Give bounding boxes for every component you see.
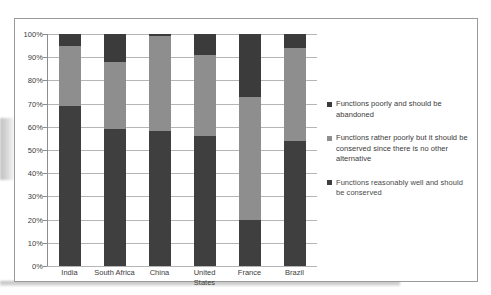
x-axis-tick-label: Brazil — [285, 268, 304, 278]
bar-segment[interactable] — [194, 136, 216, 266]
legend-square-marker-icon — [327, 180, 332, 185]
x-axis-label-line: France — [238, 268, 261, 278]
x-axis-tick-label: UnitedStates — [194, 268, 216, 287]
bar-segment[interactable] — [284, 141, 306, 266]
legend-item-label: Functions rather poorly but it should be… — [336, 133, 473, 165]
chart-container: 100%90%80%70%60%50%40%30%20%10%0% IndiaS… — [14, 18, 478, 282]
stacked-bar[interactable] — [149, 34, 171, 266]
x-axis-label-line: Brazil — [285, 268, 304, 278]
stacked-bar[interactable] — [239, 34, 261, 266]
gridline — [47, 266, 317, 267]
x-axis-tick-label: France — [238, 268, 261, 278]
y-axis-tick-label: 100% — [23, 30, 43, 39]
x-axis-label-line: States — [194, 278, 216, 288]
legend-item[interactable]: Functions rather poorly but it should be… — [327, 133, 473, 165]
bar-column[interactable] — [47, 34, 92, 266]
x-axis-tick-label: China — [150, 268, 170, 278]
y-axis-tick-label: 30% — [28, 192, 43, 201]
stacked-bar[interactable] — [59, 34, 81, 266]
bar-segment[interactable] — [284, 48, 306, 141]
bar-segment[interactable] — [59, 106, 81, 266]
y-axis-tick-label: 60% — [28, 122, 43, 131]
bar-segment[interactable] — [104, 62, 126, 129]
legend-square-marker-icon — [327, 102, 332, 107]
y-axis-tick-mark — [43, 266, 47, 267]
bar-column[interactable] — [272, 34, 317, 266]
legend-item[interactable]: Functions poorly and should be abandoned — [327, 99, 473, 120]
bar-segment[interactable] — [239, 34, 261, 97]
legend-item-label: Functions poorly and should be abandoned — [336, 99, 473, 120]
legend-item-label: Functions reasonably well and should be … — [336, 178, 473, 199]
bar-column[interactable] — [227, 34, 272, 266]
bar-segment[interactable] — [104, 129, 126, 266]
bar-segment[interactable] — [104, 34, 126, 62]
stacked-bar[interactable] — [104, 34, 126, 266]
y-axis-tick-label: 80% — [28, 76, 43, 85]
bar-segment[interactable] — [194, 34, 216, 55]
bar-column[interactable] — [92, 34, 137, 266]
x-axis-label-line: China — [150, 268, 170, 278]
chart-legend: Functions poorly and should be abandoned… — [327, 99, 473, 212]
bar-segment[interactable] — [149, 36, 171, 131]
y-axis-tick-label: 10% — [28, 238, 43, 247]
y-axis-tick-label: 20% — [28, 215, 43, 224]
x-axis-tick-label: South Africa — [94, 268, 134, 278]
stacked-bar[interactable] — [284, 34, 306, 266]
y-axis-tick-label: 90% — [28, 53, 43, 62]
x-axis-label-line: India — [61, 268, 77, 278]
bar-column[interactable] — [137, 34, 182, 266]
bar-segment[interactable] — [149, 131, 171, 266]
x-axis-label-line: United — [194, 268, 216, 278]
plot-wrapper: 100%90%80%70%60%50%40%30%20%10%0% IndiaS… — [15, 19, 477, 281]
bar-segment[interactable] — [194, 55, 216, 136]
y-axis-tick-label: 50% — [28, 146, 43, 155]
bar-segment[interactable] — [59, 46, 81, 106]
legend-square-marker-icon — [327, 136, 332, 141]
x-axis-tick-label: India — [61, 268, 77, 278]
stacked-bar[interactable] — [194, 34, 216, 266]
bar-group — [47, 34, 317, 266]
plot-area — [47, 34, 317, 266]
x-axis-label-line: South Africa — [94, 268, 134, 278]
bar-column[interactable] — [182, 34, 227, 266]
bar-segment[interactable] — [239, 97, 261, 220]
y-axis-tick-label: 0% — [32, 262, 43, 271]
bar-segment[interactable] — [284, 34, 306, 48]
y-axis-tick-label: 40% — [28, 169, 43, 178]
bar-segment[interactable] — [59, 34, 81, 46]
x-axis-labels: IndiaSouth AfricaChinaUnitedStatesFrance… — [47, 268, 317, 295]
bar-segment[interactable] — [239, 220, 261, 266]
y-axis-tick-label: 70% — [28, 99, 43, 108]
legend-item[interactable]: Functions reasonably well and should be … — [327, 178, 473, 199]
